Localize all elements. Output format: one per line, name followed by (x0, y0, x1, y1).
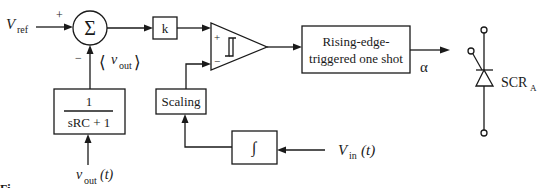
one-shot-label-line1: Rising-edge- (322, 34, 389, 49)
scaling-label: Scaling (162, 94, 201, 109)
avg-label-sub: out (119, 60, 132, 71)
vout-label-sub: out (84, 175, 97, 186)
control-block-diagram: V ref + Σ k + − Rising-edge- triggered o… (0, 0, 537, 188)
integrator-input-arrowhead (277, 147, 286, 154)
vin-label-main: V (338, 142, 349, 158)
oneshot-arrowhead (293, 44, 302, 51)
vout-label-main: v (76, 167, 83, 182)
summer-minus-sign: − (75, 51, 82, 65)
scaling-to-comparator-wire (186, 64, 204, 89)
summer-plus-sign: + (56, 8, 63, 22)
alpha-label: α (420, 59, 428, 75)
vref-label-main: V (6, 16, 17, 32)
thyristor-icon (468, 27, 493, 136)
avg-close-bracket: ⟩ (134, 53, 141, 72)
comparator-plus-arrowhead (202, 25, 211, 32)
vref-label-sub: ref (17, 24, 29, 35)
filter-denominator: sRC + 1 (68, 115, 111, 130)
comparator-minus-arrowhead (202, 61, 211, 68)
alpha-arrowhead (440, 47, 450, 54)
scr-label-sub: A (530, 83, 537, 93)
comparator-plus-sign: + (214, 31, 220, 43)
vref-arrowhead (64, 24, 73, 31)
sigma-symbol: Σ (84, 17, 96, 39)
filter-numerator: 1 (86, 94, 93, 109)
scr-label-main: SCR (501, 75, 528, 90)
avg-label-main: v (111, 52, 118, 67)
integrator-to-scaling-wire (185, 122, 232, 147)
filter-input-arrowhead (85, 134, 92, 143)
caption-fragment: Fi (0, 182, 11, 188)
vin-label-sub: in (349, 150, 357, 161)
one-shot-label-line2: triggered one shot (309, 51, 403, 66)
gain-label: k (162, 21, 169, 36)
comparator-minus-sign: − (214, 55, 220, 67)
scaling-arrowhead (182, 114, 189, 123)
vin-label-suffix: (t) (361, 142, 375, 159)
vout-label-suffix: (t) (100, 167, 114, 183)
gain-arrowhead (144, 25, 153, 32)
summer-minus-arrowhead (87, 45, 94, 54)
avg-open-bracket: ⟨ (99, 53, 106, 72)
